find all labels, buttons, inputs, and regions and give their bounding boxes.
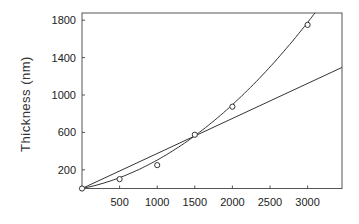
y-tick-label: 200: [58, 164, 76, 176]
data-points: [79, 22, 310, 191]
x-tick-label: 1000: [145, 196, 169, 208]
linear-fit-line: [82, 67, 343, 189]
x-tick-label: 1500: [183, 196, 207, 208]
y-axis-title: Thickness (nm): [18, 56, 33, 152]
y-axis-ticks: 200600100014001800: [52, 14, 85, 176]
x-tick-label: 2500: [258, 196, 282, 208]
y-tick-label: 1000: [52, 89, 76, 101]
data-point-marker: [117, 177, 122, 182]
data-point-marker: [155, 163, 160, 168]
data-point-marker: [230, 104, 235, 109]
data-point-marker: [79, 186, 84, 191]
chart: 200600100014001800 500100015002000250030…: [0, 0, 359, 224]
x-tick-label: 2000: [220, 196, 244, 208]
quadratic-fit-line: [82, 0, 329, 188]
data-point-marker: [192, 132, 197, 137]
y-tick-label: 600: [58, 126, 76, 138]
x-tick-label: 500: [110, 196, 128, 208]
fit-lines: [82, 0, 343, 188]
plot-frame: [82, 13, 342, 189]
y-tick-label: 1800: [52, 14, 76, 26]
x-tick-label: 3000: [295, 196, 319, 208]
data-point-marker: [305, 22, 310, 27]
y-tick-label: 1400: [52, 52, 76, 64]
